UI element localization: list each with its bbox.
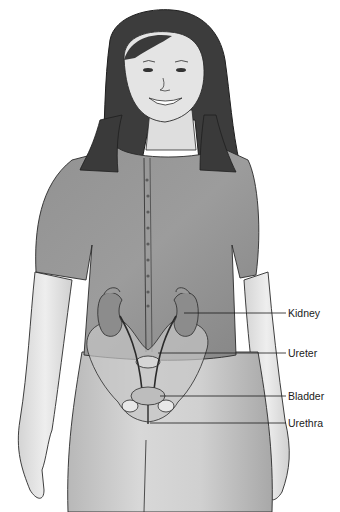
left-kidney <box>98 293 122 337</box>
label-urethra: Urethra <box>288 417 323 429</box>
label-ureter: Ureter <box>288 347 317 359</box>
urinary-system-illustration <box>0 0 340 512</box>
label-kidney: Kidney <box>288 307 320 319</box>
label-bladder: Bladder <box>288 390 324 402</box>
right-kidney <box>174 293 198 337</box>
bladder-organ <box>131 387 165 405</box>
